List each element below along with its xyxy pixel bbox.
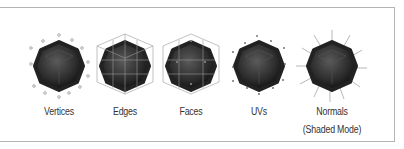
normals-item: Normals (Shaded Mode): [292, 8, 372, 143]
uvs-sphere-icon: [219, 26, 299, 106]
uvs-item: UVs: [219, 8, 299, 143]
component-modes-panel: Vertices Edges Faces: [0, 7, 395, 142]
normals-label: Normals: [297, 106, 367, 117]
faces-label: Faces: [156, 106, 226, 117]
uvs-label: UVs: [224, 106, 294, 117]
normals-sphere-icon: [292, 26, 372, 106]
normals-sublabel: (Shaded Mode): [297, 124, 367, 135]
vertices-label: Vertices: [24, 106, 94, 117]
edges-label: Edges: [90, 106, 160, 117]
